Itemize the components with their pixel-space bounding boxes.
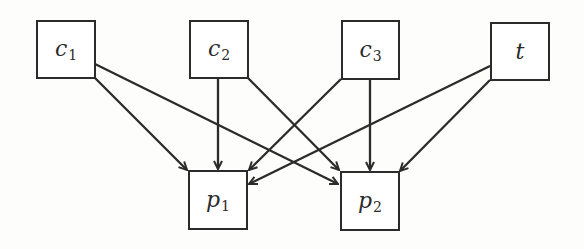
node-c1: c1 bbox=[36, 20, 96, 79]
diagram-canvas: c1 c2 c3 t p1 p2 bbox=[0, 0, 584, 249]
node-c3: c3 bbox=[341, 20, 400, 80]
edge-t-p2 bbox=[400, 80, 490, 171]
node-t: t bbox=[490, 22, 550, 81]
node-p2: p2 bbox=[340, 171, 400, 231]
node-p1: p1 bbox=[188, 170, 248, 230]
edge-c1-p2 bbox=[95, 64, 338, 184]
edge-c1-p1 bbox=[95, 78, 187, 170]
node-c2: c2 bbox=[189, 20, 249, 79]
